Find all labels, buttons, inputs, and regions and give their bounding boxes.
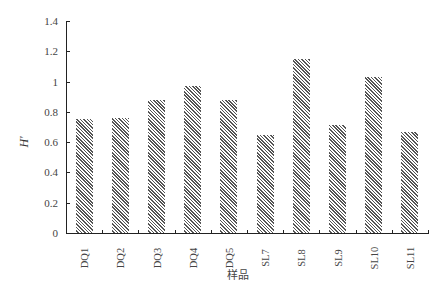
bar-dq4 bbox=[184, 86, 201, 233]
bar-sl10 bbox=[365, 77, 382, 233]
x-axis-title: 样品 bbox=[227, 266, 249, 282]
y-tick bbox=[66, 21, 70, 22]
x-tick bbox=[211, 230, 212, 234]
x-tick-label: SL11 bbox=[405, 247, 416, 269]
bar-sl7 bbox=[257, 135, 274, 233]
x-tick bbox=[283, 230, 284, 234]
y-tick-label: 0.4 bbox=[18, 166, 58, 178]
bar-dq2 bbox=[112, 118, 129, 233]
y-tick bbox=[66, 82, 70, 83]
y-tick bbox=[66, 172, 70, 173]
x-tick-label: SL7 bbox=[260, 249, 271, 267]
bar-sl11 bbox=[401, 132, 418, 233]
y-tick-label: 1.2 bbox=[18, 45, 58, 57]
x-tick bbox=[102, 230, 103, 234]
x-tick-label: SL9 bbox=[333, 249, 344, 267]
y-tick-label: 0 bbox=[18, 227, 58, 239]
y-tick bbox=[66, 142, 70, 143]
x-tick-label: DQ3 bbox=[152, 248, 163, 268]
x-tick-label: SL8 bbox=[296, 249, 307, 267]
x-tick bbox=[175, 230, 176, 234]
x-tick-label: DQ2 bbox=[115, 248, 126, 268]
bar-chart: H' 00.20.40.60.811.21.4 DQ1DQ2DQ3DQ4DQ5S… bbox=[0, 0, 448, 299]
bar-sl9 bbox=[329, 125, 346, 233]
bar-dq5 bbox=[220, 100, 237, 233]
x-tick bbox=[247, 230, 248, 234]
y-tick bbox=[66, 112, 70, 113]
y-tick-label: 1 bbox=[18, 76, 58, 88]
x-tick bbox=[356, 230, 357, 234]
x-tick-label: DQ4 bbox=[188, 248, 199, 268]
y-tick bbox=[66, 203, 70, 204]
y-tick bbox=[66, 233, 70, 234]
x-tick bbox=[138, 230, 139, 234]
bar-dq3 bbox=[148, 100, 165, 233]
y-tick bbox=[66, 51, 70, 52]
y-tick-label: 1.4 bbox=[18, 15, 58, 27]
y-tick-label: 0.2 bbox=[18, 197, 58, 209]
bar-sl8 bbox=[293, 59, 310, 233]
bar-dq1 bbox=[76, 119, 93, 233]
x-tick bbox=[428, 230, 429, 234]
x-tick bbox=[319, 230, 320, 234]
x-tick-label: DQ1 bbox=[79, 248, 90, 268]
y-tick-label: 0.8 bbox=[18, 106, 58, 118]
x-tick bbox=[392, 230, 393, 234]
y-tick-label: 0.6 bbox=[18, 136, 58, 148]
x-tick-label: SL10 bbox=[369, 247, 380, 270]
